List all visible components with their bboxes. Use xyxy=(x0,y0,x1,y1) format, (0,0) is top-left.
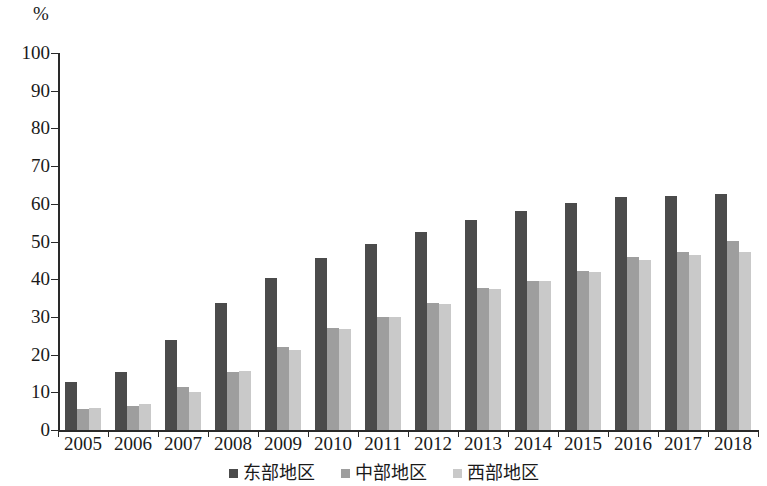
bar xyxy=(139,404,151,430)
y-axis-tick-label: 10 xyxy=(31,382,50,401)
bar xyxy=(665,196,677,430)
bar xyxy=(65,382,77,430)
bar-chart: % 0102030405060708090100 200520062007200… xyxy=(0,0,767,486)
x-axis-tick-label: 2007 xyxy=(164,434,202,453)
x-axis-tick-mark xyxy=(758,430,759,437)
bar xyxy=(327,328,339,430)
bar xyxy=(365,244,377,430)
bar xyxy=(565,203,577,430)
y-axis-tick-mark xyxy=(51,242,58,243)
bar xyxy=(515,211,527,430)
legend-swatch-icon xyxy=(229,469,238,478)
bar xyxy=(389,317,401,430)
x-axis-tick-label: 2011 xyxy=(364,434,401,453)
bar xyxy=(727,241,739,430)
x-axis-tick-label: 2008 xyxy=(214,434,252,453)
legend-label: 东部地区 xyxy=(243,464,315,482)
bar xyxy=(165,340,177,430)
bar xyxy=(189,392,201,430)
y-axis-tick-label: 40 xyxy=(31,269,50,288)
x-axis-tick-label: 2015 xyxy=(564,434,602,453)
y-axis-tick-mark xyxy=(51,279,58,280)
legend-item[interactable]: 中部地区 xyxy=(341,464,427,482)
legend-item[interactable]: 西部地区 xyxy=(453,464,539,482)
bar xyxy=(89,408,101,430)
bar xyxy=(427,303,439,430)
y-axis-tick-label: 0 xyxy=(41,420,51,439)
chart-legend: 东部地区中部地区西部地区 xyxy=(0,460,767,486)
y-axis-tick-label: 70 xyxy=(31,156,50,175)
bar xyxy=(115,372,127,430)
y-axis-tick-label: 30 xyxy=(31,307,50,326)
y-axis-tick-mark xyxy=(51,317,58,318)
y-axis-tick-mark xyxy=(51,166,58,167)
y-axis-tick-mark xyxy=(51,355,58,356)
bar xyxy=(77,409,89,430)
y-axis-tick-mark xyxy=(51,53,58,54)
y-axis-tick-label: 20 xyxy=(31,345,50,364)
y-axis-tick-label: 80 xyxy=(31,119,50,138)
bar xyxy=(739,252,751,430)
bar xyxy=(589,272,601,430)
bar xyxy=(177,387,189,430)
bar xyxy=(215,303,227,430)
y-axis-tick-mark xyxy=(51,91,58,92)
bar xyxy=(577,271,589,430)
x-axis-tick-labels: 2005200620072008200920102011201220132014… xyxy=(58,434,758,460)
legend-swatch-icon xyxy=(341,469,350,478)
y-axis-tick-mark xyxy=(51,204,58,205)
legend-label: 中部地区 xyxy=(355,464,427,482)
legend-item[interactable]: 东部地区 xyxy=(229,464,315,482)
y-axis-tick-label: 60 xyxy=(31,194,50,213)
bar xyxy=(677,252,689,430)
x-axis-tick-label: 2009 xyxy=(264,434,302,453)
y-axis-tick-label: 90 xyxy=(31,81,50,100)
y-axis-tick-mark xyxy=(51,392,58,393)
x-axis-tick-label: 2013 xyxy=(464,434,502,453)
bar xyxy=(339,329,351,430)
bar xyxy=(715,194,727,430)
x-axis-tick-label: 2012 xyxy=(414,434,452,453)
y-axis-tick-label: 50 xyxy=(31,232,50,251)
bar xyxy=(439,304,451,430)
bar xyxy=(615,197,627,430)
y-axis-tick-mark xyxy=(51,430,58,431)
legend-label: 西部地区 xyxy=(467,464,539,482)
bar xyxy=(639,260,651,430)
y-axis-tick-label: 100 xyxy=(22,43,51,62)
y-axis-tick-mark xyxy=(51,128,58,129)
x-axis-tick-label: 2016 xyxy=(614,434,652,453)
bar xyxy=(477,288,489,431)
bar xyxy=(627,257,639,430)
bar xyxy=(227,372,239,430)
y-axis-unit-label: % xyxy=(33,4,49,23)
bar xyxy=(265,278,277,430)
x-axis-tick-label: 2010 xyxy=(314,434,352,453)
bar xyxy=(689,255,701,430)
x-axis-tick-label: 2018 xyxy=(714,434,752,453)
bar xyxy=(239,371,251,430)
bar xyxy=(527,281,539,430)
y-axis-tick-labels: 0102030405060708090100 xyxy=(6,53,50,430)
x-axis-tick-label: 2006 xyxy=(114,434,152,453)
bar xyxy=(289,350,301,430)
bar xyxy=(315,258,327,430)
bar xyxy=(277,347,289,430)
plot-area xyxy=(58,53,758,430)
bars-layer xyxy=(58,53,758,430)
bar xyxy=(539,281,551,430)
legend-swatch-icon xyxy=(453,469,462,478)
x-axis-tick-label: 2017 xyxy=(664,434,702,453)
x-axis-tick-label: 2014 xyxy=(514,434,552,453)
bar xyxy=(377,317,389,430)
bar xyxy=(127,406,139,431)
x-axis-tick-label: 2005 xyxy=(64,434,102,453)
bar xyxy=(465,220,477,430)
bar xyxy=(489,289,501,430)
bar xyxy=(415,232,427,430)
